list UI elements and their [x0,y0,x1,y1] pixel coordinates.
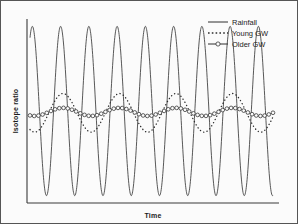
older-gw-marker [271,111,275,115]
older-gw-marker [179,107,183,111]
older-gw-marker [66,107,70,111]
older-gw-marker [171,106,175,110]
older-gw-marker [175,106,179,110]
older-gw-marker [99,112,103,116]
older-gw-marker [192,112,196,116]
older-gw-marker [150,114,154,118]
older-gw-marker [129,109,133,113]
older-gw-marker [217,110,221,114]
older-gw-marker [212,112,216,116]
older-gw-marker [154,113,158,117]
chart-figure: Time Isotope ratio Rainfall Young GW Old… [0,0,298,224]
older-gw-marker [133,111,137,115]
older-gw-marker [263,114,267,118]
older-gw-marker [233,106,237,110]
older-gw-marker [141,114,145,118]
older-gw-marker [145,114,149,118]
y-axis-title: Isotope ratio [12,89,20,134]
older-gw-marker [196,113,200,117]
series-rainfall [30,26,273,195]
older-gw-marker [225,107,229,111]
older-gw-marker [238,107,242,111]
legend-label-young-gw: Young GW [232,29,269,38]
legend-swatch-older-gw-marker-icon [216,42,220,46]
older-gw-marker [91,114,95,118]
older-gw-marker [183,108,187,112]
older-gw-marker [57,106,61,110]
older-gw-marker [221,108,225,112]
older-gw-marker [250,112,254,116]
older-gw-marker [70,108,74,112]
older-gw-marker [37,114,41,118]
legend-item-older-gw: Older GW [208,40,266,49]
chart-canvas: Time Isotope ratio Rainfall Young GW Old… [1,1,298,224]
older-gw-marker [158,111,162,115]
older-gw-marker [120,106,124,110]
older-gw-marker [74,110,78,114]
older-gw-marker [95,113,99,117]
chart-legend: Rainfall Young GW Older GW [208,18,269,49]
older-gw-marker [187,110,191,114]
older-gw-marker [83,113,87,117]
older-gw-marker [49,109,53,113]
legend-label-older-gw: Older GW [232,40,266,49]
older-gw-marker [87,114,91,118]
older-gw-marker [137,112,141,116]
older-gw-marker [267,113,271,117]
older-gw-marker [53,107,57,111]
older-gw-marker [78,111,82,115]
older-gw-marker [166,107,170,111]
older-gw-marker [229,106,233,110]
older-gw-marker [108,108,112,112]
older-gw-marker [116,106,120,110]
older-gw-marker [104,110,108,114]
older-gw-marker [32,114,36,118]
older-gw-marker [204,114,208,118]
older-gw-marker [112,107,116,111]
older-gw-marker [259,114,263,118]
older-gw-marker [28,114,32,118]
x-axis-title: Time [144,212,161,219]
legend-item-rainfall: Rainfall [208,18,257,27]
legend-label-rainfall: Rainfall [232,18,257,27]
older-gw-marker [242,109,246,113]
older-gw-marker [246,111,250,115]
older-gw-marker [254,114,258,118]
older-gw-marker [208,113,212,117]
older-gw-marker [62,106,66,110]
older-gw-marker [200,114,204,118]
older-gw-marker [45,111,49,115]
legend-item-young-gw: Young GW [208,29,269,38]
older-gw-marker [41,113,45,117]
older-gw-marker [125,107,129,111]
older-gw-marker [162,109,166,113]
